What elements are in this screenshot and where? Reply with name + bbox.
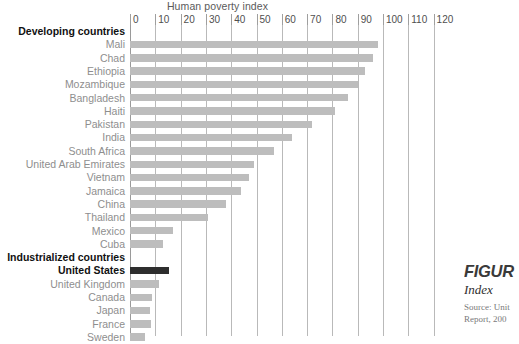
category-label: China [98,198,125,211]
figure-number-label: FIGUR [464,262,519,280]
bar [130,280,159,287]
chart-row: Canada [130,291,510,304]
figure-subtitle: Index [464,281,519,298]
chart-row: Thailand [130,211,510,224]
category-label: Vietnam [87,171,125,184]
chart-row: Mozambique [130,78,510,91]
bar [130,134,292,141]
chart-row: Chad [130,52,510,65]
bar [130,94,348,101]
chart-row: Haiti [130,105,510,118]
chart-row: France [130,318,510,331]
category-label: Canada [88,291,125,304]
category-label: Mozambique [65,78,125,91]
group-header-row: Industrialized countries [130,251,510,264]
chart-row: United Arab Emirates [130,158,510,171]
bar [130,67,365,74]
category-label: Chad [100,52,125,65]
group-header-label: Developing countries [18,25,125,38]
category-label: Thailand [85,211,125,224]
figure-source: Source: Unit Report, 200 [464,302,519,325]
chart-row: Pakistan [130,118,510,131]
bar [130,147,274,154]
bar [130,214,208,221]
group-header-row: Developing countries [130,25,510,38]
bar [130,333,145,340]
bar [130,307,150,314]
category-label: Pakistan [85,118,125,131]
chart-row: Mali [130,38,510,51]
category-label: Mali [106,38,125,51]
category-label: Ethiopia [87,65,125,78]
chart-row: South Africa [130,145,510,158]
category-label: South Africa [68,145,125,158]
chart-row: Vietnam [130,171,510,184]
bar [130,294,152,301]
chart-row: United States [130,264,510,277]
bar [130,320,151,327]
chart-title: Human poverty index [0,0,435,12]
figure-source-line-2: Report, 200 [464,314,519,326]
bar [130,227,173,234]
chart-row: Mexico [130,225,510,238]
bar [130,121,312,128]
plot-area: Developing countriesMaliChadEthiopiaMoza… [130,25,510,336]
chart-row: Jamaica [130,185,510,198]
category-label: United Arab Emirates [26,158,125,171]
chart-row: Bangladesh [130,92,510,105]
group-header-label: Industrialized countries [7,251,125,264]
bar [130,174,249,181]
category-label: United Kingdom [50,278,125,291]
category-label: United States [58,264,125,277]
bar [130,54,373,61]
bar [130,161,254,168]
chart-row: India [130,131,510,144]
figure-caption-block: FIGUR Index Source: Unit Report, 200 [464,262,519,325]
category-label: Jamaica [86,185,125,198]
category-label: Japan [96,304,125,317]
chart-row: United Kingdom [130,278,510,291]
bar [130,267,169,274]
figure-source-line-1: Source: Unit [464,302,519,314]
chart-row: China [130,198,510,211]
bar [130,41,378,48]
category-label: Haiti [104,105,125,118]
category-label: Sweden [87,331,125,344]
bar [130,240,163,247]
category-label: Mexico [92,225,125,238]
bar [130,200,226,207]
category-label: France [92,318,125,331]
chart-row: Japan [130,304,510,317]
bar [130,107,335,114]
category-label: Bangladesh [70,92,125,105]
chart-row: Ethiopia [130,65,510,78]
category-label: India [102,131,125,144]
bar [130,81,358,88]
chart-row: Sweden [130,331,510,344]
bar [130,187,241,194]
chart-row: Cuba [130,238,510,251]
category-label: Cuba [100,238,125,251]
